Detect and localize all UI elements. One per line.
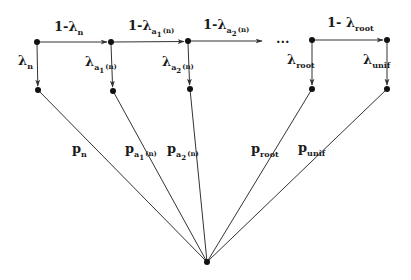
edge-sink-n <box>38 90 207 262</box>
edge-h-a1-a2 <box>113 42 184 43</box>
label-v-n: λn <box>18 53 33 71</box>
edge-sink-root <box>207 89 312 262</box>
edge-v-n <box>37 44 38 86</box>
label-v-root: λroot <box>287 52 315 70</box>
label-p-root: proot <box>251 141 279 159</box>
node-top-root <box>309 37 315 43</box>
node-sink <box>204 259 210 265</box>
label-h-a2: 1-λa2(n) <box>203 17 249 38</box>
node-bottom-a2 <box>187 86 193 92</box>
ellipsis: ... <box>276 31 290 46</box>
label-p-unif: punif <box>298 140 326 158</box>
label-p-a1: pa1(n) <box>125 141 157 162</box>
label-p-a2: pa2(n) <box>167 141 199 162</box>
horizontal-edges <box>39 40 383 42</box>
node-bottom-root <box>309 86 315 92</box>
sink-edges <box>38 89 387 262</box>
label-h-a1: 1-λa1(n) <box>128 18 174 39</box>
interpolation-diagram: ... 1-λn 1-λa1(n) 1-λa2(n) 1- λroot λn λ… <box>0 0 411 280</box>
node-top-a1 <box>108 39 114 45</box>
node-top-a2 <box>185 38 191 44</box>
label-h-n: 1-λn <box>54 19 84 37</box>
horizontal-labels: 1-λn 1-λa1(n) 1-λa2(n) 1- λroot <box>54 15 374 39</box>
node-top-unif <box>384 37 390 43</box>
sink-labels: pn pa1(n) pa2(n) proot punif <box>72 140 326 162</box>
nodes <box>34 37 390 265</box>
label-p-n: pn <box>72 141 87 159</box>
node-bottom-n <box>35 87 41 93</box>
node-top-n <box>34 39 40 45</box>
vertical-labels: λn λa1(n) λa2(n) λroot λunif <box>18 52 391 75</box>
node-bottom-unif <box>384 86 390 92</box>
edge-sink-unif <box>207 89 387 262</box>
label-h-root: 1- λroot <box>327 15 374 33</box>
node-bottom-a1 <box>110 88 116 94</box>
